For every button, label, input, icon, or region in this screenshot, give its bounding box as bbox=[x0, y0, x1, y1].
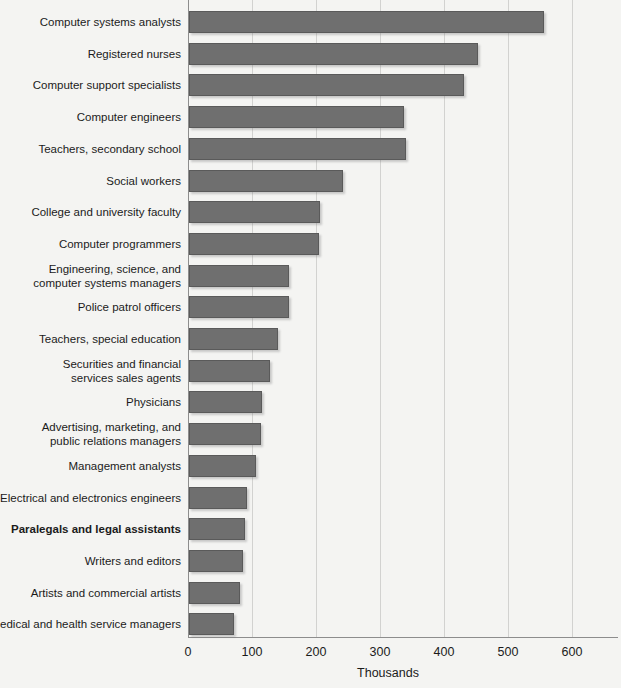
x-tick-label: 600 bbox=[542, 645, 602, 659]
category-label: Electrical and electronics engineers bbox=[0, 491, 181, 505]
category-label: Computer systems analysts bbox=[0, 15, 181, 29]
bar-chart: Computer systems analystsRegistered nurs… bbox=[0, 0, 621, 688]
bar-row: Police patrol officers bbox=[0, 296, 621, 318]
bar bbox=[189, 201, 320, 223]
category-label: Medical and health service managers bbox=[0, 617, 181, 631]
bar-row: Electrical and electronics engineers bbox=[0, 487, 621, 509]
x-axis-line bbox=[188, 637, 618, 638]
bar bbox=[189, 613, 234, 635]
category-label: Computer support specialists bbox=[0, 78, 181, 92]
category-label: Securities and financial services sales … bbox=[0, 357, 181, 385]
bar bbox=[189, 423, 261, 445]
bar-row: Paralegals and legal assistants bbox=[0, 518, 621, 540]
bar-row: Engineering, science, and computer syste… bbox=[0, 265, 621, 287]
category-label: Management analysts bbox=[0, 459, 181, 473]
bar-row: Computer engineers bbox=[0, 106, 621, 128]
bar-row: Social workers bbox=[0, 170, 621, 192]
bar-row: Registered nurses bbox=[0, 43, 621, 65]
category-label: Physicians bbox=[0, 395, 181, 409]
x-tick-label: 100 bbox=[222, 645, 282, 659]
bar bbox=[189, 233, 319, 255]
x-tick-label: 300 bbox=[350, 645, 410, 659]
category-label: Social workers bbox=[0, 174, 181, 188]
bar bbox=[189, 170, 343, 192]
bar-row: Teachers, special education bbox=[0, 328, 621, 350]
category-label: Computer programmers bbox=[0, 237, 181, 251]
bar bbox=[189, 550, 243, 572]
bar bbox=[189, 328, 278, 350]
category-label: Teachers, secondary school bbox=[0, 142, 181, 156]
bar-row: Computer programmers bbox=[0, 233, 621, 255]
category-label: Artists and commercial artists bbox=[0, 586, 181, 600]
bar-row: College and university faculty bbox=[0, 201, 621, 223]
bar bbox=[189, 74, 464, 96]
category-label: Police patrol officers bbox=[0, 300, 181, 314]
bar-row: Medical and health service managers bbox=[0, 613, 621, 635]
category-label: Paralegals and legal assistants bbox=[0, 522, 181, 536]
x-axis-title: Thousands bbox=[188, 666, 588, 680]
x-tick-label: 500 bbox=[478, 645, 538, 659]
bar-row: Computer systems analysts bbox=[0, 11, 621, 33]
bar bbox=[189, 487, 247, 509]
bar-row: Advertising, marketing, and public relat… bbox=[0, 423, 621, 445]
bar bbox=[189, 138, 406, 160]
bar bbox=[189, 360, 270, 382]
bar-row: Computer support specialists bbox=[0, 74, 621, 96]
bar-row: Management analysts bbox=[0, 455, 621, 477]
x-tick-label: 400 bbox=[414, 645, 474, 659]
x-tick-label: 200 bbox=[286, 645, 346, 659]
x-tick-label: 0 bbox=[158, 645, 218, 659]
category-label: Advertising, marketing, and public relat… bbox=[0, 420, 181, 448]
category-label: Writers and editors bbox=[0, 554, 181, 568]
bar bbox=[189, 455, 256, 477]
bar-row: Physicians bbox=[0, 391, 621, 413]
bar bbox=[189, 391, 262, 413]
bar bbox=[189, 11, 544, 33]
category-label: Teachers, special education bbox=[0, 332, 181, 346]
bar-row: Securities and financial services sales … bbox=[0, 360, 621, 382]
bar bbox=[189, 582, 240, 604]
category-label: Engineering, science, and computer syste… bbox=[0, 262, 181, 290]
category-label: Registered nurses bbox=[0, 47, 181, 61]
category-label: Computer engineers bbox=[0, 110, 181, 124]
bar-row: Artists and commercial artists bbox=[0, 582, 621, 604]
bar bbox=[189, 518, 245, 540]
bar bbox=[189, 43, 478, 65]
category-label: College and university faculty bbox=[0, 205, 181, 219]
bar-row: Writers and editors bbox=[0, 550, 621, 572]
bar bbox=[189, 265, 289, 287]
bar bbox=[189, 296, 289, 318]
bar-row: Teachers, secondary school bbox=[0, 138, 621, 160]
bar bbox=[189, 106, 404, 128]
